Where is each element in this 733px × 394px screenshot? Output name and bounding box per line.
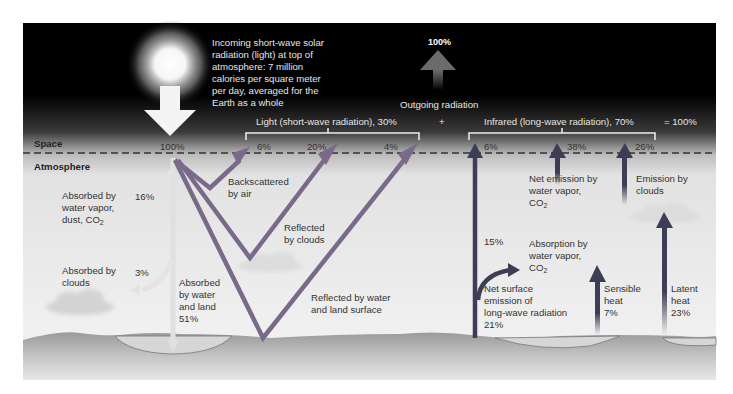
sensible-heat-arrow [595,280,600,335]
net-surface-label: long-wave radiation [484,307,567,319]
atmosphere-label: Atmosphere [34,161,90,173]
net-surface-percent: 21% [484,319,503,331]
absorbed-surface-label: and land [179,301,216,313]
absorption-label: CO2 [529,262,547,274]
absorbed-surface-label: Absorbed [179,277,220,289]
cloud-reflect-percent: 20% [307,141,326,153]
surface-reflect-label: and land surface [311,304,382,316]
absorption-label: water vapor, [529,250,581,262]
cloud-reflect-label: Reflected [284,222,325,234]
absorbed-clouds-label: clouds [62,277,90,289]
absorbed-vapor-label: Absorbed by [62,190,116,202]
latent-heat-label: Latent [671,283,698,295]
vapor-emission-percent: 38% [567,141,586,153]
outgoing-percent: 100% [428,36,451,48]
latent-heat-arrow [662,225,667,335]
latent-heat-label: heat [671,295,690,307]
absorbed-clouds-percent: 3% [135,267,149,279]
cloud-reflect-label: by clouds [284,234,325,246]
longwave-bracket-label: Infrared (long-wave radiation), 70% [484,116,634,128]
absorbed-vapor-percent: 16% [135,191,154,203]
surface-reflect-percent: 4% [384,141,398,153]
plus-sign: + [439,116,445,128]
surface-direct-percent: 6% [484,141,498,153]
incoming-text: per day, averaged for the [212,85,319,97]
latent-heat-percent: 23% [671,307,690,319]
vapor-emission-label: CO2 [529,197,547,209]
incoming-text: Incoming short-wave solar [212,37,324,49]
incoming-text: radiation (light) at top of [212,49,313,61]
sensible-heat-percent: 7% [604,307,618,319]
incoming-text: Earth as a whole [212,97,283,109]
sensible-heat-label: heat [604,295,623,307]
outgoing-label: Outgoing radiation [400,99,478,111]
equals-total: = 100% [664,116,697,128]
absorbed-vapor-label: dust, CO2 [62,214,104,226]
cloud-emission-label: Emission by [636,173,688,185]
space-label: Space [34,138,62,150]
incoming-text: calories per square meter [212,73,321,85]
absorbed-surface-label: by water [179,289,215,301]
vapor-emission-label: Net emission by [529,173,597,185]
absorption-percent: 15% [484,236,503,248]
absorbed-surface-percent: 51% [179,313,198,325]
cloud-emission-arrow [622,155,627,205]
net-surface-label: emission of [484,295,533,307]
backscatter-label: by air [228,188,251,200]
incoming-text: atmosphere: 7 million [212,61,303,73]
backscatter-percent: 6% [257,141,271,153]
absorbed-clouds-label: Absorbed by [62,265,116,277]
absorbed-vapor-label: water vapor, [62,202,114,214]
surface-reflect-label: Reflected by water [311,292,390,304]
earth-energy-budget-diagram: Incoming short-wave solar radiation (lig… [0,0,733,394]
cloud-emission-percent: 26% [635,141,654,153]
shortwave-bracket-label: Light (short-wave radiation), 30% [256,116,397,128]
cloud-emission-label: clouds [636,185,664,197]
absorption-label: Absorption by [529,238,588,250]
vapor-emission-label: water vapor, [529,185,581,197]
net-surface-label: Net surface [484,283,533,295]
sensible-heat-label: Sensible [604,283,641,295]
backscatter-label: Backscattered [228,176,289,188]
incoming-percent: 100% [160,141,185,153]
